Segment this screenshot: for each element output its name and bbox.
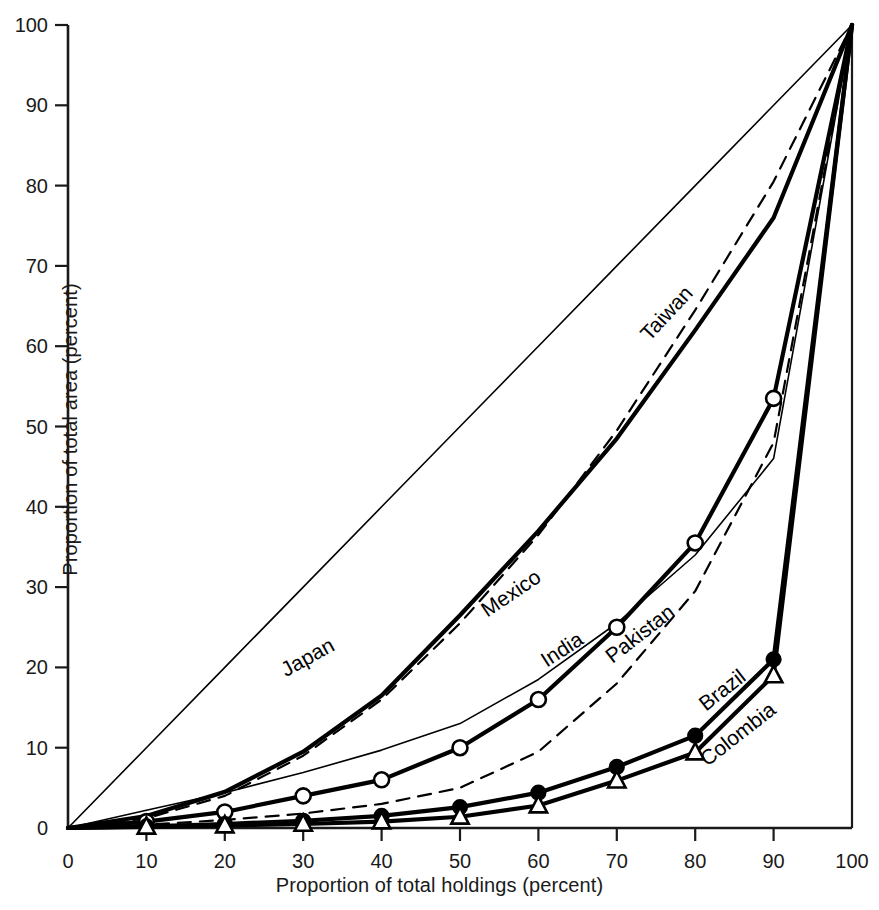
- series-label-japan: Japan: [277, 633, 338, 681]
- y-tick-label: 50: [26, 416, 48, 438]
- marker-india: [531, 692, 546, 707]
- data-series: [68, 25, 852, 834]
- marker-india: [688, 535, 703, 550]
- x-tick-label: 80: [684, 850, 706, 872]
- marker-india: [453, 740, 468, 755]
- series-label-india: India: [536, 627, 587, 671]
- y-tick-label: 20: [26, 656, 48, 678]
- x-tick-label: 90: [762, 850, 784, 872]
- series-line-equality: [68, 25, 852, 828]
- series-label-group-taiwan: Taiwan: [636, 281, 697, 344]
- series-label-group-japan: Japan: [277, 633, 338, 681]
- x-tick-label: 40: [370, 850, 392, 872]
- x-tick-label: 60: [527, 850, 549, 872]
- chart-canvas: 0102030405060708090100010203040506070809…: [0, 0, 879, 910]
- x-tick-label: 100: [835, 850, 868, 872]
- y-tick-label: 60: [26, 335, 48, 357]
- x-tick-label: 10: [135, 850, 157, 872]
- y-axis-title: Proportion of total area (percent): [59, 30, 82, 830]
- x-tick-label: 50: [449, 850, 471, 872]
- x-tick-label: 70: [606, 850, 628, 872]
- marker-colombia: [765, 666, 782, 682]
- series-label-group-india: India: [536, 627, 587, 671]
- x-tick-label: 30: [292, 850, 314, 872]
- x-tick-label: 0: [62, 850, 73, 872]
- series-label-taiwan: Taiwan: [636, 281, 697, 344]
- lorenz-curve-chart: 0102030405060708090100010203040506070809…: [0, 0, 879, 910]
- x-axis-title: Proportion of total holdings (percent): [0, 874, 879, 897]
- x-tick-label: 20: [214, 850, 236, 872]
- marker-india: [374, 772, 389, 787]
- y-tick-label: 0: [37, 817, 48, 839]
- y-tick-label: 40: [26, 496, 48, 518]
- y-tick-label: 100: [15, 14, 48, 36]
- y-tick-label: 80: [26, 175, 48, 197]
- marker-india: [766, 391, 781, 406]
- y-tick-label: 70: [26, 255, 48, 277]
- y-tick-label: 90: [26, 94, 48, 116]
- y-tick-label: 30: [26, 576, 48, 598]
- marker-india: [296, 788, 311, 803]
- y-tick-label: 10: [26, 737, 48, 759]
